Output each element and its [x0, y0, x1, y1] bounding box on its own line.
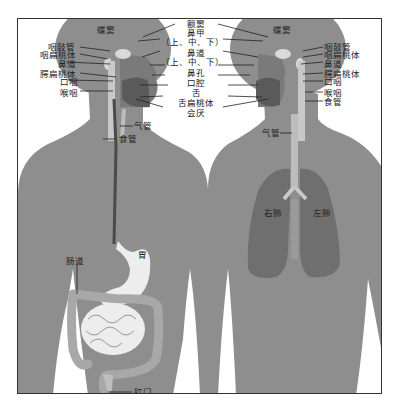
label-nostril: 鼻孔	[187, 69, 205, 78]
label-left-trachea: 气管	[134, 122, 152, 131]
label-oral-cavity: 口腔	[187, 79, 205, 88]
label-lingual-tonsil: 舌扁桃体	[178, 99, 214, 108]
label-left-lung: 左肺	[313, 209, 331, 218]
label-right-nasal-passage: 鼻道	[324, 60, 342, 69]
label-right-oropharynx: 口咽	[324, 78, 342, 87]
label-left-sphenoid-sinus: 蝶窦	[97, 26, 115, 35]
label-tongue: 舌	[192, 89, 201, 98]
label-right-esophagus: 食管	[324, 98, 342, 107]
label-left-laryngopharynx: 喉咽	[60, 89, 78, 98]
label-right-trachea: 气管	[262, 129, 280, 138]
label-intestine: 肠道	[66, 257, 84, 266]
label-meatus-sub: （上、中、下）	[161, 58, 224, 67]
anatomy-diagram-frame: 蝶窦 咽鼓管 咽扁桃体 鼻道 腭扁桃体 口咽 喉咽 额窦 鼻甲 （上、中、下） …	[17, 18, 382, 394]
label-concha-sub: （上、中、下）	[161, 38, 224, 47]
label-left-oropharynx: 口咽	[60, 78, 78, 87]
label-right-sphenoid-sinus: 蝶窦	[273, 26, 291, 35]
label-left-esophagus: 食管	[119, 135, 137, 144]
label-stomach: 胃	[138, 251, 147, 260]
label-right-lung: 右肺	[264, 209, 282, 218]
label-left-nasal-passage: 鼻道	[58, 60, 76, 69]
label-epiglottis: 会厌	[187, 109, 205, 118]
label-anus: 肛门	[134, 388, 152, 394]
